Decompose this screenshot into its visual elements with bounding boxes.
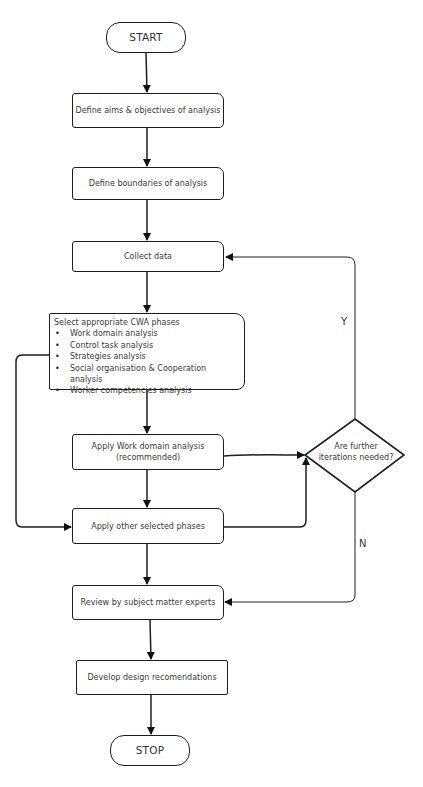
cwa-phase-list: Work domain analysis Control task analys…: [54, 328, 240, 396]
step-define-boundaries: Define boundaries of analysis: [72, 167, 224, 200]
step-apply-wda: Apply Work domain analysis (recommended): [72, 434, 224, 470]
step-develop-label: Develop design recomendations: [87, 672, 216, 683]
branch-label-yes: Y: [341, 316, 347, 327]
arrow-decision-yes-to-collect: [226, 257, 355, 419]
step-apply-wda-line2: (recommended): [116, 452, 180, 463]
step-apply-other: Apply other selected phases: [72, 508, 224, 544]
step-apply-wda-line1: Apply Work domain analysis: [92, 441, 205, 452]
arrow-apply-wda-to-decision: [224, 455, 304, 456]
arrow-review-to-develop: [150, 620, 151, 659]
step-define-aims-label: Define aims & objectives of analysis: [76, 105, 221, 116]
step-develop: Develop design recomendations: [76, 660, 228, 695]
step-review: Review by subject matter experts: [72, 585, 224, 620]
start-terminal: START: [106, 22, 186, 53]
step-select-phases-title: Select appropriate CWA phases: [54, 317, 180, 328]
cwa-phase-item: Worker competencies analysis: [54, 385, 240, 396]
step-collect-data-label: Collect data: [124, 251, 172, 262]
step-define-aims: Define aims & objectives of analysis: [72, 93, 224, 128]
step-collect-data: Collect data: [72, 241, 224, 272]
cwa-phase-item: Control task analysis: [54, 340, 240, 351]
step-select-phases: Select appropriate CWA phases Work domai…: [49, 313, 245, 390]
decision-label-line2: iterations needed?: [313, 452, 399, 463]
step-define-boundaries-label: Define boundaries of analysis: [89, 178, 208, 189]
arrow-start-to-aims: [146, 52, 147, 92]
arrow-decision-no-to-review: [225, 492, 355, 602]
stop-terminal: STOP: [110, 735, 190, 766]
decision-label-line1: Are further: [313, 441, 399, 452]
arrow-apply-other-to-decision: [224, 458, 306, 527]
cwa-phase-item: Social organisation & Cooperation analys…: [54, 363, 240, 386]
step-review-label: Review by subject matter experts: [81, 597, 216, 608]
decision-label: Are further iterations needed?: [313, 441, 399, 463]
stop-label: STOP: [136, 745, 164, 756]
cwa-phase-item: Work domain analysis: [54, 328, 240, 339]
step-apply-other-label: Apply other selected phases: [91, 521, 205, 532]
cwa-phase-item: Strategies analysis: [54, 351, 240, 362]
start-label: START: [129, 32, 162, 43]
branch-label-no: N: [359, 538, 366, 549]
